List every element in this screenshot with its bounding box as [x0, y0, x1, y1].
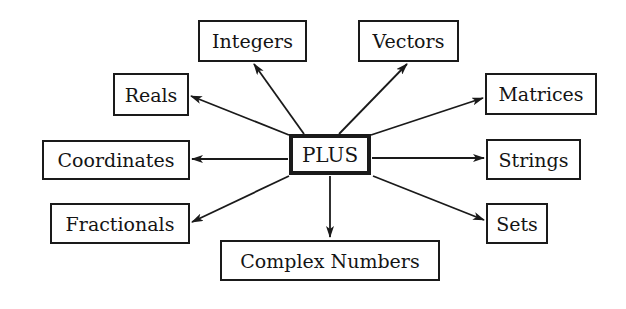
node-label: Reals — [125, 84, 178, 106]
node-label: Fractionals — [66, 213, 175, 235]
node-label: Vectors — [373, 30, 445, 52]
node-label: PLUS — [302, 143, 358, 167]
node-sets: Sets — [486, 203, 548, 244]
arrow-plus-to-sets — [373, 176, 484, 220]
node-matrices: Matrices — [485, 73, 597, 115]
node-vectors: Vectors — [358, 20, 459, 62]
arrow-plus-to-reals — [191, 96, 289, 135]
node-label: Integers — [212, 30, 293, 52]
diagram-canvas: PLUS Integers Vectors Reals Matrices Coo… — [0, 0, 626, 309]
node-label: Matrices — [498, 83, 583, 105]
node-label: Coordinates — [58, 149, 175, 171]
center-node-plus: PLUS — [289, 134, 371, 175]
node-integers: Integers — [198, 20, 307, 62]
node-label: Sets — [496, 213, 538, 235]
arrow-plus-to-vectors — [339, 64, 407, 134]
node-label: Complex Numbers — [240, 250, 419, 272]
node-label: Strings — [499, 149, 569, 171]
node-strings: Strings — [486, 139, 581, 180]
arrow-plus-to-matrices — [371, 98, 483, 135]
arrow-plus-to-fractionals — [192, 176, 289, 222]
node-coordinates: Coordinates — [42, 140, 190, 180]
node-reals: Reals — [113, 73, 189, 116]
node-fractionals: Fractionals — [50, 203, 190, 244]
node-complex-numbers: Complex Numbers — [220, 240, 440, 281]
